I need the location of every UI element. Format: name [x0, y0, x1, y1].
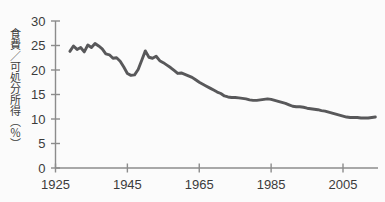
x-tick-label: 1985 [257, 177, 286, 192]
y-tick-label: 20 [31, 63, 45, 78]
x-tick-label: 2005 [329, 177, 358, 192]
y-axis: 051015202530 [31, 14, 60, 176]
y-tick-label: 25 [31, 38, 45, 53]
y-axis-label: 食費／可処分所得（％） [4, 28, 24, 148]
y-tick-label: 30 [31, 14, 45, 29]
chart-canvas: 051015202530 19251945196519852005 [0, 0, 385, 202]
data-series-line [70, 44, 375, 118]
food-expenditure-share-chart: 051015202530 19251945196519852005 食費／可処分… [0, 0, 385, 202]
y-tick-label: 10 [31, 112, 45, 127]
x-tick-label: 1965 [185, 177, 214, 192]
data-series-group [70, 44, 375, 118]
x-tick-label: 1945 [113, 177, 142, 192]
y-tick-label: 0 [38, 161, 45, 176]
x-axis: 19251945196519852005 [41, 164, 378, 193]
y-tick-label: 5 [38, 136, 45, 151]
x-tick-label: 1925 [41, 177, 70, 192]
y-axis-label-text: 食費／可処分所得（％） [9, 28, 20, 149]
y-tick-label: 15 [31, 87, 45, 102]
